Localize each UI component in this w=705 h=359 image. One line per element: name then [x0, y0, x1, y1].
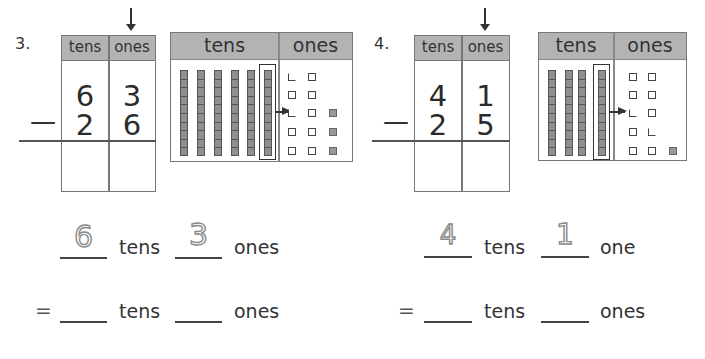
grid-header-tens: tens — [415, 36, 461, 60]
traced-ones-value: 1 — [541, 220, 589, 250]
ones-label: ones — [600, 300, 645, 322]
ones-cube-regrouped — [308, 109, 316, 117]
subtraction-grid: tens ones 6 3 2 6 — [61, 35, 156, 192]
ones-cube — [329, 128, 337, 136]
chart-header-ones: ones — [279, 33, 352, 59]
sum-line — [19, 140, 156, 142]
answer-ones-box[interactable] — [109, 142, 155, 191]
ones-cube-regrouped — [288, 91, 296, 99]
regroup-arrow-icon — [275, 111, 289, 113]
answer-tens-blank[interactable] — [60, 321, 107, 323]
problem-number: 4. — [374, 34, 389, 53]
tens-label: tens — [484, 236, 525, 258]
ones-cube-regrouped — [629, 147, 637, 155]
grid-header-ones: ones — [109, 36, 155, 60]
answer-tens-box[interactable] — [415, 142, 461, 191]
tens-label: tens — [119, 300, 160, 322]
answer-ones-blank[interactable] — [175, 321, 222, 323]
arrow-down-icon — [484, 8, 486, 25]
arrow-down-icon — [130, 8, 132, 25]
tens-blank[interactable] — [60, 257, 107, 259]
ones-cube-regrouped — [629, 109, 637, 117]
tens-label: tens — [119, 236, 160, 258]
subtrahend-tens: 2 — [415, 110, 461, 140]
ones-cube-regrouped — [629, 91, 637, 99]
ones-cube-regrouped — [308, 91, 316, 99]
ones-cube — [329, 147, 337, 155]
tens-blank[interactable] — [424, 256, 472, 258]
tens-rod — [197, 70, 205, 156]
grid-header-tens: tens — [62, 36, 108, 60]
ones-cube-regrouped — [648, 147, 656, 155]
minuend-ones: 1 — [462, 81, 509, 111]
minuend-tens: 6 — [62, 81, 108, 111]
regrouped-rod-outline — [259, 64, 276, 160]
subtrahend-ones: 5 — [462, 110, 509, 140]
chart-header-tens: tens — [171, 33, 278, 59]
tens-rod — [180, 70, 188, 156]
sum-line — [372, 140, 510, 142]
subtraction-grid: tens ones 4 1 2 5 — [414, 35, 510, 192]
ones-cube-regrouped — [288, 128, 296, 136]
regroup-arrow-icon — [609, 111, 625, 113]
place-value-chart: tens ones — [538, 32, 687, 161]
ones-blank[interactable] — [175, 257, 222, 259]
problem-number: 3. — [15, 34, 30, 53]
place-value-chart: tens ones — [170, 32, 353, 162]
equals-sign: = — [398, 298, 415, 322]
ones-cube-regrouped — [288, 73, 296, 81]
answer-tens-box[interactable] — [62, 142, 108, 191]
subtrahend-tens: 2 — [62, 110, 108, 140]
ones-cube-regrouped — [308, 147, 316, 155]
traced-ones-value: 3 — [175, 220, 222, 250]
subtrahend-ones: 6 — [109, 110, 155, 140]
tens-label: tens — [484, 300, 525, 322]
tens-rod — [565, 70, 573, 156]
ones-label: ones — [234, 300, 279, 322]
regrouped-rod-outline — [593, 64, 610, 160]
minus-sign: — — [383, 106, 409, 136]
traced-tens-value: 6 — [60, 222, 107, 252]
minuend-ones: 3 — [109, 81, 155, 111]
ones-label: one — [600, 236, 635, 258]
tens-rod — [578, 70, 586, 156]
ones-cube-regrouped — [648, 128, 656, 136]
ones-cube-regrouped — [308, 128, 316, 136]
tens-rod — [231, 70, 239, 156]
tens-rod — [247, 70, 255, 156]
ones-cube-regrouped — [288, 147, 296, 155]
ones-cube-regrouped — [308, 73, 316, 81]
chart-header-ones: ones — [614, 33, 686, 59]
ones-cube-regrouped — [629, 73, 637, 81]
ones-cube-regrouped — [648, 109, 656, 117]
ones-cube-regrouped — [648, 73, 656, 81]
answer-ones-blank[interactable] — [541, 321, 589, 323]
answer-ones-box[interactable] — [462, 142, 509, 191]
ones-cube-regrouped — [629, 128, 637, 136]
ones-cube — [329, 109, 337, 117]
ones-blank[interactable] — [541, 256, 589, 258]
minus-sign: — — [30, 106, 56, 136]
answer-tens-blank[interactable] — [424, 321, 472, 323]
ones-label: ones — [234, 236, 279, 258]
ones-cube — [669, 147, 677, 155]
ones-cube-regrouped — [288, 109, 296, 117]
minuend-tens: 4 — [415, 81, 461, 111]
chart-header-tens: tens — [539, 33, 613, 59]
grid-header-ones: ones — [462, 36, 509, 60]
equals-sign: = — [35, 298, 52, 322]
tens-rod — [548, 70, 556, 156]
tens-rod — [214, 70, 222, 156]
ones-cube-regrouped — [648, 91, 656, 99]
traced-tens-value: 4 — [424, 220, 472, 250]
